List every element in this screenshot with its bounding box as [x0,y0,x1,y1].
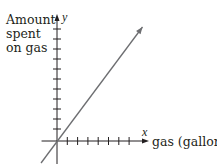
series-line [41,27,142,163]
x-axis-var-label: x [141,125,148,139]
series [41,27,142,163]
y-label-line-1: Amount [5,12,56,27]
x-axis-label: gas (gallons) [152,134,217,149]
graph: Amount spent on gas y x gas (gallons) [0,0,217,168]
y-axis-var-label: y [61,10,68,24]
ticks [53,29,129,145]
series-arrowhead [136,27,142,34]
y-label-line-3: on gas [6,40,47,55]
y-label-line-2: spent [6,26,41,41]
x-axis-arrowhead [142,139,149,144]
